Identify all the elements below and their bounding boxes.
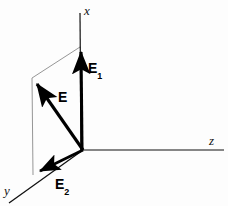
vector-label-e1-subscript: 1	[97, 71, 102, 81]
vector-label-e2-subscript: 2	[64, 187, 69, 197]
axis-line-y	[9, 150, 83, 203]
vector-diagram-figure: x y z E E1 E2	[0, 0, 228, 206]
vector-label-e1-base: E	[88, 60, 97, 76]
vector-arrow-e1	[81, 52, 82, 150]
vector-label-e2: E2	[55, 177, 69, 195]
vector-label-e-base: E	[58, 89, 67, 105]
vector-arrow-e2	[40, 150, 83, 171]
construction-line-parallel-top	[32, 47, 80, 78]
axis-label-z: z	[209, 134, 214, 147]
vector-label-e1: E1	[88, 61, 102, 79]
vector-label-e2-base: E	[55, 176, 64, 192]
axis-label-y: y	[4, 184, 10, 197]
diagram-canvas	[0, 0, 228, 206]
construction-line-parallel-side	[32, 78, 33, 175]
vector-label-e: E	[58, 90, 67, 104]
axis-label-x: x	[84, 4, 90, 17]
